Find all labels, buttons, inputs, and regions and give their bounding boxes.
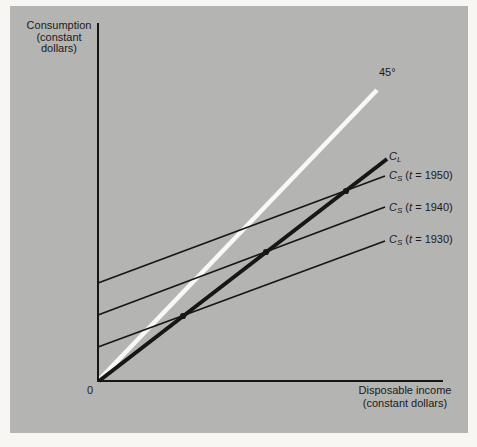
intersection-dot-1 (180, 313, 186, 319)
curve-label-cs-1950: CS (t = 1950) (389, 170, 453, 185)
curve-cs-1930 (98, 241, 385, 347)
curve-label-cs-1930: CS (t = 1930) (389, 234, 453, 249)
intersection-dot-3 (343, 188, 349, 194)
line-45deg (99, 90, 377, 380)
curve-label-cs-1940: CS (t = 1940) (389, 202, 453, 217)
angle-45-label: 45° (379, 67, 396, 79)
curve-label-cl: CL (389, 151, 401, 166)
y-axis-label: Consumption (constant dollars) (19, 20, 99, 55)
origin-label: 0 (87, 385, 93, 397)
curve-cs-1940 (98, 207, 385, 315)
consumption-chart (0, 0, 477, 447)
x-axis-label: Disposable income (constant dollars) (354, 384, 456, 410)
intersection-dot-2 (263, 249, 269, 255)
figure-page: Consumption (constant dollars) Disposabl… (0, 0, 477, 447)
